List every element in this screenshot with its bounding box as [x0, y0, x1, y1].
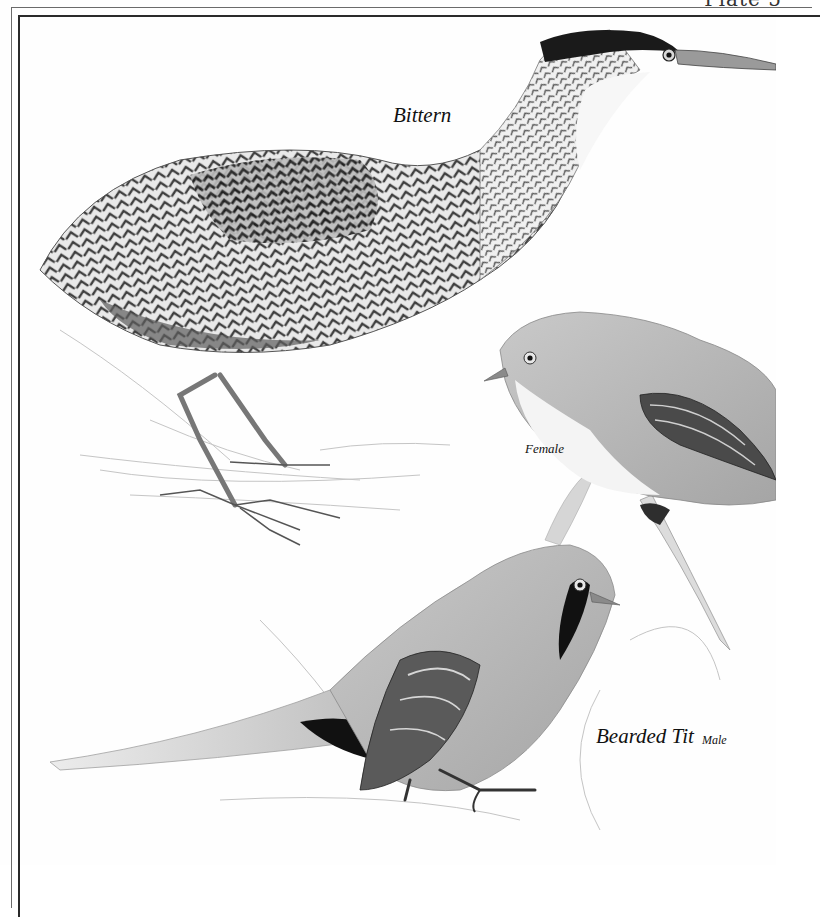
label-bittern: Bittern: [393, 103, 451, 128]
bearded-tit-male-illustration: [50, 545, 720, 830]
label-female: Female: [525, 441, 564, 457]
label-bearded-tit: Bearded Tit: [596, 724, 694, 749]
label-male: Male: [702, 733, 727, 748]
